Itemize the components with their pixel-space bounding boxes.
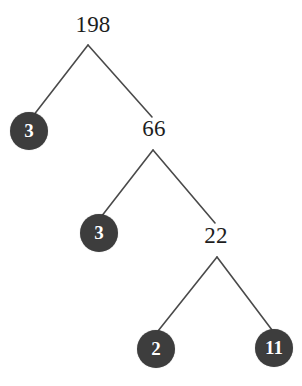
tree-node-198: 198 (75, 13, 110, 36)
tree-node-198-label: 198 (75, 13, 110, 36)
tree-node-2: 2 (137, 330, 175, 368)
tree-node-3-middle: 3 (80, 214, 118, 252)
tree-edge-root-n3a (33, 45, 88, 116)
tree-edge-layer (0, 0, 302, 386)
tree-edge-n22-n11 (217, 257, 272, 330)
tree-node-22-label: 22 (204, 224, 227, 247)
tree-node-3-left-label: 3 (24, 121, 34, 140)
tree-node-66: 66 (142, 117, 165, 140)
tree-node-66-label: 66 (142, 117, 165, 140)
factor-tree-diagram: 198 3 66 3 22 2 11 (0, 0, 302, 386)
tree-node-2-label: 2 (151, 339, 161, 358)
tree-edge-root-n66 (88, 45, 152, 117)
tree-node-3-middle-label: 3 (94, 223, 104, 242)
tree-node-11: 11 (255, 329, 293, 367)
tree-edge-n66-n3b (101, 150, 153, 217)
tree-node-3-left: 3 (10, 112, 48, 150)
tree-edge-n66-n22 (153, 150, 215, 223)
tree-edge-n22-n2 (158, 257, 217, 331)
tree-node-11-label: 11 (265, 338, 283, 357)
tree-node-22: 22 (204, 224, 227, 247)
